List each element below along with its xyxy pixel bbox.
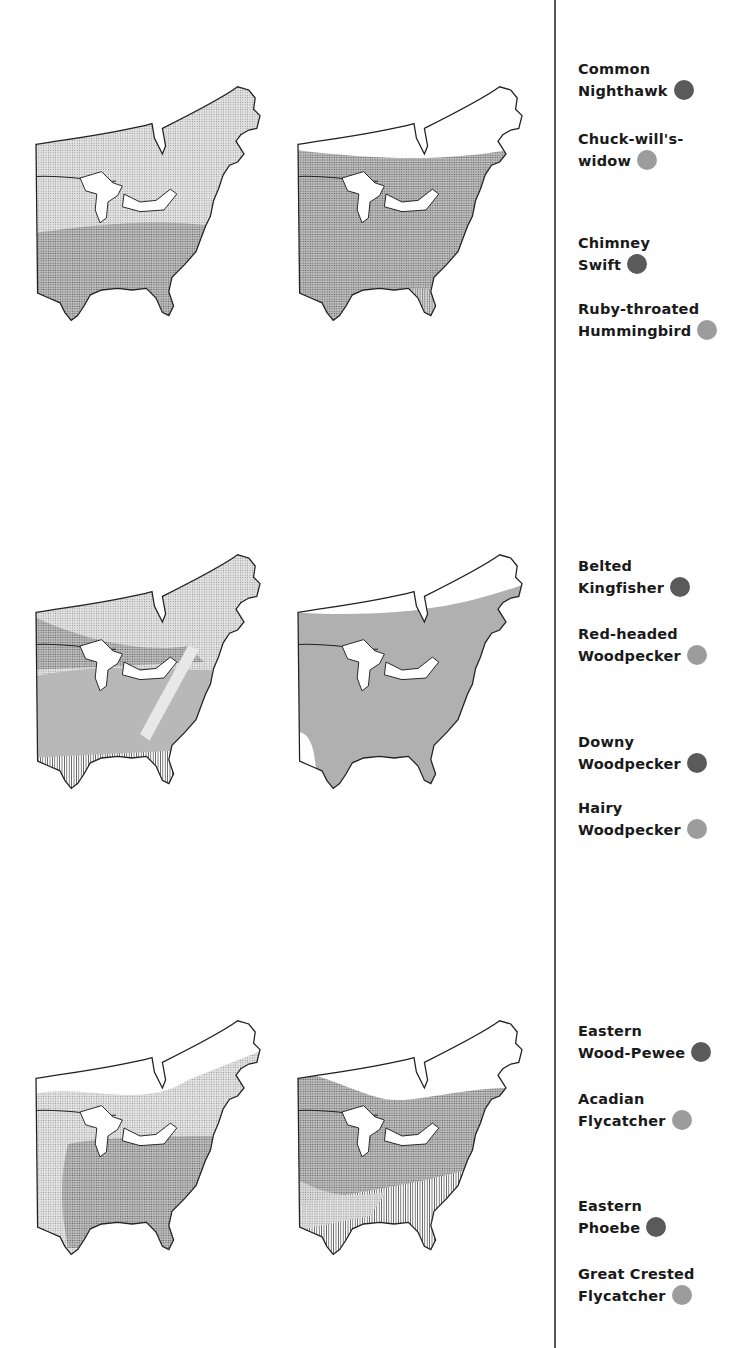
vertical-divider [554, 0, 556, 1348]
light-dot-icon [687, 645, 707, 665]
legend-item: Chuck-will's-widow [578, 128, 684, 172]
range-map-downy-hairy [290, 524, 530, 824]
legend-item: DownyWoodpecker [578, 731, 707, 775]
legend-item: AcadianFlycatcher [578, 1088, 692, 1132]
legend-item: Great CrestedFlycatcher [578, 1263, 695, 1307]
light-dot-icon [697, 320, 717, 340]
dark-dot-icon [627, 254, 647, 274]
range-map-nighthawk-chuckwills [28, 56, 268, 356]
dark-dot-icon [674, 80, 694, 100]
light-dot-icon [672, 1110, 692, 1130]
range-map-kingfisher-redheaded [28, 524, 268, 824]
range-map-swift-hummingbird [290, 56, 530, 356]
legend-item: ChimneySwift [578, 232, 650, 276]
dark-dot-icon [687, 753, 707, 773]
light-dot-icon [687, 819, 707, 839]
light-dot-icon [637, 150, 657, 170]
legend-item: EasternPhoebe [578, 1195, 666, 1239]
range-map-pewee-acadian [28, 990, 268, 1290]
legend-item: HairyWoodpecker [578, 797, 707, 841]
dark-dot-icon [670, 577, 690, 597]
range-map-phoebe-crested [290, 990, 530, 1290]
legend-item: EasternWood-Pewee [578, 1020, 711, 1064]
light-dot-icon [672, 1285, 692, 1305]
legend-item: CommonNighthawk [578, 58, 694, 102]
dark-dot-icon [691, 1042, 711, 1062]
legend-item: Ruby-throatedHummingbird [578, 298, 717, 342]
legend-item: BeltedKingfisher [578, 555, 690, 599]
dark-dot-icon [646, 1217, 666, 1237]
legend-item: Red-headedWoodpecker [578, 623, 707, 667]
